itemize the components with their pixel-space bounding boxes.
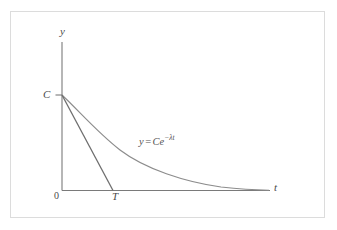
equation-exponent: −λt [164, 133, 174, 142]
figure-container: y t C 0 T y=Ce−λt [0, 0, 337, 230]
equation-lhs: y [139, 136, 144, 147]
y-axis-label: y [60, 26, 65, 37]
tangent-line [62, 95, 113, 191]
equation-equals-sign: = [144, 136, 153, 147]
origin-label: 0 [54, 191, 59, 201]
equation-annotation: y=Ce−λt [139, 134, 175, 147]
t-axis-label: t [274, 182, 277, 193]
t-point-label: T [112, 191, 118, 202]
plot-canvas [0, 0, 337, 230]
c-intercept-label: C [43, 89, 50, 100]
equation-base: Ce [153, 136, 165, 147]
